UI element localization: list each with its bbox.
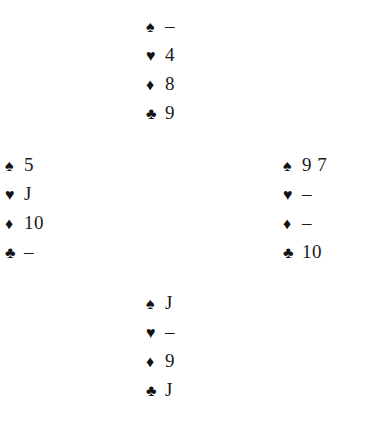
suit-ranks-spades: J [165,288,173,317]
suit-row-clubs: ♣ J [146,375,175,404]
diamond-suit-icon: ♦ [146,70,162,99]
hand-south: ♠ J ♥ – ♦ 9 ♣ J [146,288,175,404]
suit-row-diamonds: ♦ – [283,208,327,237]
diamond-suit-icon: ♦ [5,209,21,238]
club-suit-icon: ♣ [146,99,162,128]
suit-row-spades: ♠ 9 7 [283,150,327,179]
suit-row-hearts: ♥ J [5,179,44,208]
diamond-suit-icon: ♦ [283,209,299,238]
suit-ranks-diamonds: 8 [165,69,175,98]
suit-ranks-hearts: 4 [165,40,175,69]
suit-row-clubs: ♣ – [5,237,44,266]
club-suit-icon: ♣ [146,376,162,405]
suit-ranks-spades: 9 7 [302,150,327,179]
suit-ranks-clubs: – [24,237,34,266]
suit-ranks-clubs: J [165,375,173,404]
hand-north: ♠ – ♥ 4 ♦ 8 ♣ 9 [146,11,175,127]
suit-ranks-diamonds: 10 [24,208,44,237]
suit-ranks-spades: – [165,11,175,40]
spade-suit-icon: ♠ [146,12,162,41]
suit-ranks-spades: 5 [24,150,34,179]
bridge-deal-diagram: ♠ – ♥ 4 ♦ 8 ♣ 9 ♠ 5 ♥ J ♦ 10 ♣ – [0,0,366,425]
suit-row-diamonds: ♦ 8 [146,69,175,98]
club-suit-icon: ♣ [283,238,299,267]
suit-row-clubs: ♣ 9 [146,98,175,127]
suit-row-spades: ♠ – [146,11,175,40]
suit-row-diamonds: ♦ 9 [146,346,175,375]
suit-ranks-clubs: 9 [165,98,175,127]
suit-row-hearts: ♥ – [146,317,175,346]
club-suit-icon: ♣ [5,238,21,267]
heart-suit-icon: ♥ [283,180,299,209]
suit-ranks-hearts: – [165,317,175,346]
suit-row-diamonds: ♦ 10 [5,208,44,237]
suit-row-hearts: ♥ – [283,179,327,208]
suit-ranks-diamonds: 9 [165,346,175,375]
heart-suit-icon: ♥ [146,318,162,347]
spade-suit-icon: ♠ [283,151,299,180]
suit-ranks-hearts: J [24,179,32,208]
hand-west: ♠ 5 ♥ J ♦ 10 ♣ – [5,150,44,266]
suit-ranks-hearts: – [302,179,312,208]
diamond-suit-icon: ♦ [146,347,162,376]
suit-row-hearts: ♥ 4 [146,40,175,69]
heart-suit-icon: ♥ [5,180,21,209]
suit-ranks-clubs: 10 [302,237,322,266]
heart-suit-icon: ♥ [146,41,162,70]
spade-suit-icon: ♠ [5,151,21,180]
spade-suit-icon: ♠ [146,289,162,318]
suit-ranks-diamonds: – [302,208,312,237]
hand-east: ♠ 9 7 ♥ – ♦ – ♣ 10 [283,150,327,266]
suit-row-clubs: ♣ 10 [283,237,327,266]
suit-row-spades: ♠ J [146,288,175,317]
suit-row-spades: ♠ 5 [5,150,44,179]
